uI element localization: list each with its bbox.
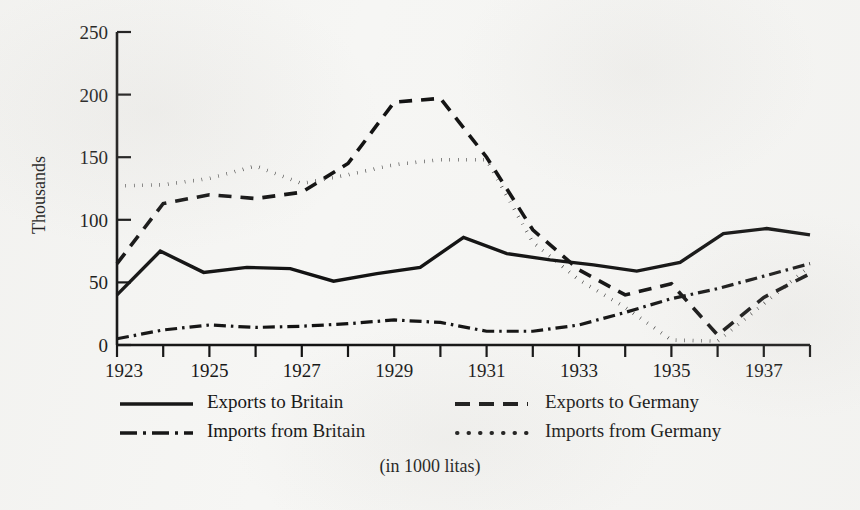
x-tick-label-1933: 1933 — [560, 360, 598, 381]
legend-item-exports-to-germany[interactable]: Exports to Germany — [455, 391, 700, 412]
legend-item-imports-from-germany[interactable]: Imports from Germany — [457, 420, 722, 441]
series-line-exports-to-germany — [117, 98, 810, 335]
chart-canvas: 0 50 100 150 200 250 1923 1925 1927 1929… — [0, 0, 860, 510]
y-tick-label-0: 0 — [99, 335, 109, 356]
series-line-exports-to-britain — [117, 229, 810, 295]
legend-label-exports-to-britain: Exports to Britain — [207, 391, 344, 412]
y-tick-label-100: 100 — [80, 210, 109, 231]
series-line-imports-from-britain — [117, 264, 810, 339]
y-tick-label-200: 200 — [80, 85, 109, 106]
x-tick-label-1923: 1923 — [105, 360, 143, 381]
x-tick-marks — [117, 345, 810, 357]
axis-group: 0 50 100 150 200 250 1923 1925 1927 1929… — [29, 22, 810, 381]
figure-caption: (in 1000 litas) — [380, 456, 481, 477]
y-axis-title: Thousands — [29, 156, 49, 234]
series-line-imports-from-germany — [117, 160, 810, 342]
x-tick-label-1925: 1925 — [190, 360, 228, 381]
legend-label-imports-from-germany: Imports from Germany — [545, 420, 722, 441]
y-tick-label-50: 50 — [89, 272, 108, 293]
x-tick-label-1937: 1937 — [745, 360, 783, 381]
y-tick-marks — [117, 32, 131, 345]
trade-line-chart-figure: 0 50 100 150 200 250 1923 1925 1927 1929… — [0, 0, 860, 510]
legend-item-exports-to-britain[interactable]: Exports to Britain — [120, 391, 344, 412]
y-tick-label-150: 150 — [80, 147, 109, 168]
x-tick-label-1929: 1929 — [375, 360, 413, 381]
y-tick-label-250: 250 — [80, 22, 109, 43]
legend-item-imports-from-britain[interactable]: Imports from Britain — [120, 420, 366, 441]
series-group — [117, 98, 810, 341]
legend-label-imports-from-britain: Imports from Britain — [207, 420, 366, 441]
x-tick-label-1931: 1931 — [468, 360, 506, 381]
legend-label-exports-to-germany: Exports to Germany — [545, 391, 700, 412]
x-tick-label-1927: 1927 — [283, 360, 321, 381]
legend: Exports to Britain Exports to Germany Im… — [120, 391, 722, 441]
x-tick-label-1935: 1935 — [652, 360, 690, 381]
